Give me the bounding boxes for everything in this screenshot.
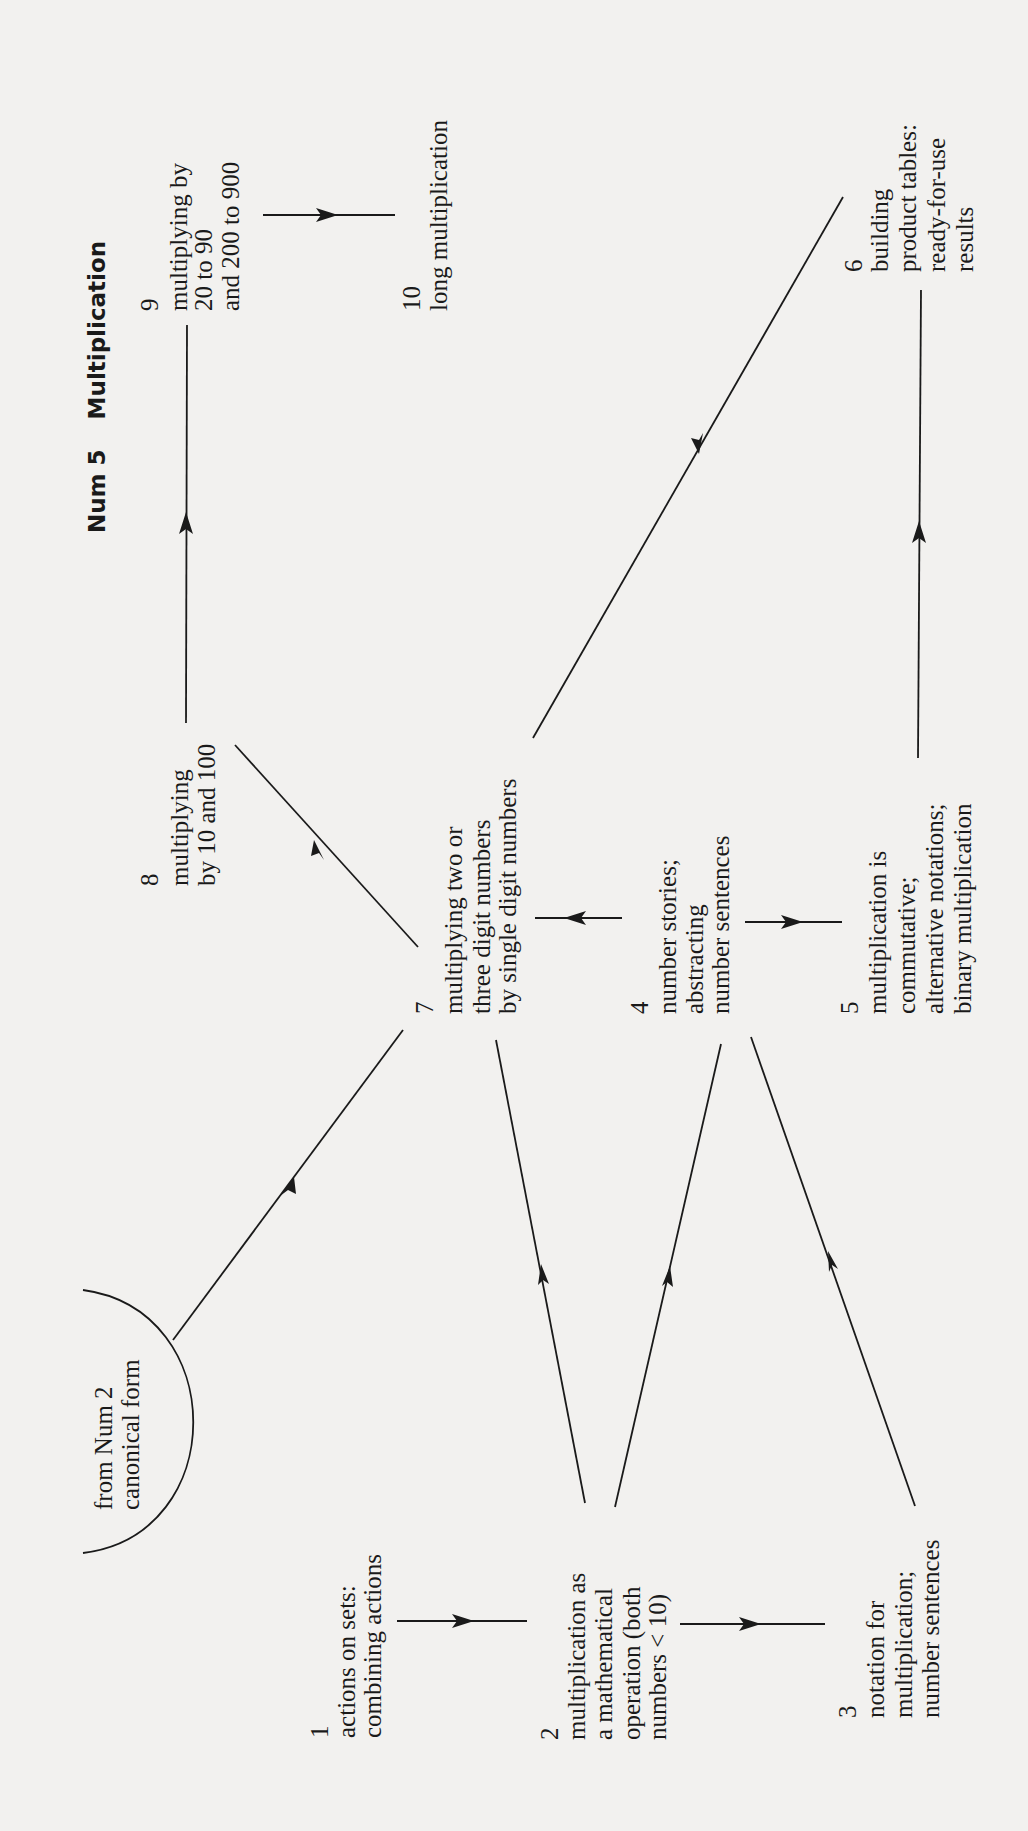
node-10-number: 10 (398, 286, 425, 311)
edge-num2-to-7 (173, 1030, 403, 1340)
title-code: Num 5 (84, 449, 110, 533)
node-6-line-4: results (951, 207, 978, 272)
node-3: 3 notation for multiplication; number se… (834, 1540, 944, 1718)
svg-text:8 multiplying: 8 multiplying by 10 and 100 (136, 744, 220, 886)
node-5-line-3: alternative notations; (921, 804, 948, 1014)
edge-6-to-7 (533, 197, 843, 738)
edge-4-to-7 (535, 911, 622, 925)
svg-text:from Num 2 canonical f: from Num 2 canonical form (90, 1359, 144, 1510)
node-10-line-1: long multiplication (425, 120, 452, 311)
node-2-line-1: multiplication as (563, 1573, 590, 1740)
svg-text:6 building pro: 6 building product tables: ready-for-use… (840, 118, 978, 272)
svg-text:Num 5 Multiplication: Num 5 Multiplication (84, 241, 110, 533)
node-9-line-2: 20 to 90 (190, 229, 217, 311)
diagram-title: Num 5 Multiplication (84, 241, 110, 533)
node-7-number: 7 (411, 1002, 438, 1015)
node-4-line-3: number sentences (707, 836, 734, 1014)
flow-diagram: Num 5 Multiplication from Num 2 canonica… (0, 0, 1028, 1831)
edge-2-to-3 (680, 1617, 825, 1631)
arrowhead-icon (311, 840, 324, 860)
node-2-number: 2 (536, 1728, 563, 1741)
node-3-line-3: number sentences (917, 1540, 944, 1718)
node-3-number: 3 (834, 1706, 861, 1719)
node-8-number: 8 (136, 874, 163, 887)
node-2-line-4: numbers < 10) (644, 1594, 672, 1740)
node-6-line-1: building (866, 188, 893, 272)
node-9-number: 9 (136, 299, 163, 312)
node-9-line-3: and 200 to 900 (217, 162, 244, 311)
edge-8-to-9 (179, 325, 193, 723)
edge-5-to-6 (912, 290, 926, 758)
node-6: 6 building product tables: ready-for-use… (840, 118, 978, 272)
node-8: 8 multiplying by 10 and 100 (136, 744, 220, 886)
node-7-line-3: by single digit numbers (494, 779, 521, 1014)
node-1: 1 actions on sets: combining actions (306, 1554, 386, 1738)
svg-text:10 long multiplication: 10 long multiplication (398, 120, 452, 311)
node-7-line-2: three digit numbers (468, 820, 495, 1014)
node-9-line-1: multiplying by (165, 163, 192, 311)
svg-text:9 multiplying by: 9 multiplying by 20 to 90 and 200 to 900 (136, 157, 244, 311)
node-6-line-2: product tables: (894, 124, 921, 272)
node-10: 10 long multiplication (398, 120, 452, 311)
edge-2-to-4 (615, 1044, 721, 1507)
edge-4-to-5 (745, 915, 842, 929)
node-5-line-2: commutative; (893, 877, 920, 1014)
svg-text:1 actions on sets:: 1 actions on sets: combining actions (306, 1554, 386, 1738)
node-8-line-1: multiplying (166, 769, 193, 886)
node-4-number: 4 (626, 1001, 653, 1014)
edge-7-to-8 (235, 745, 418, 947)
node-2-line-2: a mathematical (590, 1588, 617, 1740)
svg-text:4 number stories;: 4 number stories; abstracting number sen… (626, 836, 734, 1014)
node-7-line-1: multiplying two or (440, 826, 467, 1014)
edge-2-to-7 (496, 1040, 585, 1503)
source-line-2: canonical form (117, 1359, 144, 1510)
node-4-line-2: abstracting (681, 904, 708, 1014)
node-2: 2 multiplication as a mathematical opera… (536, 1566, 672, 1740)
node-5-line-1: multiplication is (864, 851, 891, 1014)
source-num2-node: from Num 2 canonical form (83, 1290, 193, 1553)
svg-text:5 multiplication is: 5 multiplication is commutative; alterna… (836, 797, 976, 1014)
node-1-number: 1 (306, 1726, 333, 1739)
source-line-1: from Num 2 (90, 1386, 117, 1510)
edge-9-to-10 (263, 208, 395, 222)
arrowhead-icon (280, 1177, 296, 1196)
node-3-line-1: notation for (862, 1600, 889, 1718)
node-9: 9 multiplying by 20 to 90 and 200 to 900 (136, 157, 244, 311)
arrowhead-icon (662, 1266, 673, 1287)
node-6-number: 6 (840, 260, 867, 273)
node-5-line-4: binary multiplication (949, 803, 976, 1014)
svg-text:2 multiplication as: 2 multiplication as a mathematical opera… (536, 1566, 672, 1740)
svg-text:3 notation for: 3 notation for multiplication; number se… (834, 1540, 944, 1718)
node-6-line-3: ready-for-use (923, 138, 950, 272)
node-5: 5 multiplication is commutative; alterna… (836, 797, 976, 1014)
node-5-number: 5 (836, 1002, 863, 1015)
title-name: Multiplication (84, 241, 110, 419)
node-7: 7 multiplying two or three digit numbers… (411, 779, 521, 1014)
node-8-line-2: by 10 and 100 (193, 744, 220, 886)
svg-text:7 multiplying two or: 7 multiplying two or three digit numbers… (411, 779, 521, 1014)
node-4-line-1: number stories; (654, 859, 681, 1014)
edge-1-to-2 (397, 1614, 527, 1628)
node-2-line-3: operation (both (618, 1586, 646, 1740)
node-1-line-2: combining actions (359, 1554, 386, 1738)
diagram-page: Num 5 Multiplication from Num 2 canonica… (0, 0, 1028, 1831)
node-3-line-2: multiplication; (890, 1571, 917, 1718)
edge-3-to-4 (751, 1037, 915, 1506)
node-4: 4 number stories; abstracting number sen… (626, 836, 734, 1014)
node-1-line-1: actions on sets: (333, 1585, 360, 1738)
